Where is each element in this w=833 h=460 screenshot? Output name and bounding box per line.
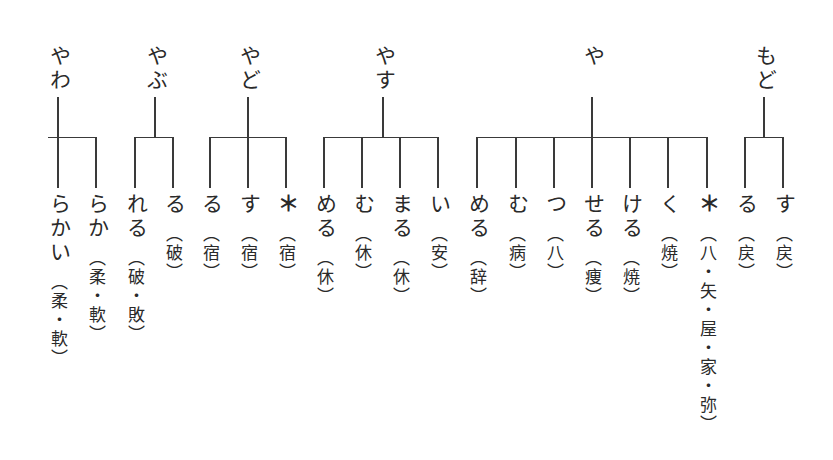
- suffix-entry: らか（柔・軟）: [86, 193, 107, 344]
- branch-bar: [210, 137, 287, 138]
- kanji-gloss: （焼）: [622, 249, 639, 306]
- suffix-text: らかい: [47, 193, 71, 265]
- branch-line: [437, 137, 438, 188]
- suffix-entry: い（安）: [428, 193, 449, 282]
- branch-line: [744, 137, 745, 188]
- suffix-text: ける: [619, 193, 643, 241]
- stem-line: [591, 97, 592, 137]
- branch-line: [476, 137, 477, 188]
- branch-line: [172, 137, 173, 188]
- kanji-gloss: （戻）: [775, 225, 792, 282]
- kanji-gloss: （宿）: [240, 225, 257, 282]
- branch-line: [629, 137, 630, 188]
- stem-line: [763, 97, 764, 137]
- branch-line: [57, 137, 58, 188]
- suffix-entry: ける（焼）: [620, 193, 641, 306]
- kanji-gloss: （休）: [354, 225, 371, 282]
- suffix-text: らか: [85, 193, 109, 241]
- suffix-entry: める（休）: [314, 193, 335, 306]
- kanji-gloss: （休）: [392, 249, 409, 306]
- branch-line: [591, 137, 592, 188]
- suffix-text: める: [313, 193, 337, 241]
- root-stem-label: やど: [238, 45, 259, 93]
- branch-bar: [477, 137, 708, 138]
- root-stem-label: もど: [754, 45, 775, 93]
- stem-line: [154, 97, 155, 137]
- suffix-text: む: [505, 193, 529, 217]
- branch-line: [323, 137, 324, 188]
- asterisk-marker-icon: ＊: [275, 193, 299, 217]
- suffix-entry: らかい（柔・軟）: [48, 193, 69, 368]
- root-stem-label: やぶ: [145, 45, 166, 93]
- suffix-text: る: [162, 193, 186, 217]
- branch-line: [782, 137, 783, 188]
- kanji-gloss: （宿）: [278, 225, 295, 282]
- marker-entry: ＊（宿）: [276, 193, 297, 282]
- branch-line: [95, 137, 96, 188]
- branch-line: [361, 137, 362, 188]
- suffix-text: まる: [389, 193, 413, 241]
- kanji-gloss: （戻）: [737, 225, 754, 282]
- branch-line: [134, 137, 135, 188]
- kanji-gloss: （休）: [316, 249, 333, 306]
- suffix-text: す: [772, 193, 796, 217]
- branch-line: [553, 137, 554, 188]
- marker-entry: ＊（八・矢・屋・家・弥）: [697, 193, 718, 434]
- suffix-text: る: [199, 193, 223, 217]
- stem-line: [57, 97, 58, 137]
- kanji-gloss: （八・矢・屋・家・弥）: [699, 225, 716, 434]
- stem-line: [382, 97, 383, 137]
- suffix-text: める: [466, 193, 490, 241]
- root-stem-label: やす: [373, 45, 394, 93]
- suffix-entry: る（戻）: [735, 193, 756, 282]
- suffix-entry: る（破）: [163, 193, 184, 282]
- branch-line: [247, 137, 248, 188]
- suffix-text: い: [427, 193, 451, 217]
- root-stem-label: や: [582, 45, 603, 69]
- suffix-entry: まる（休）: [390, 193, 411, 306]
- branch-line: [285, 137, 286, 188]
- kanji-gloss: （破）: [165, 225, 182, 282]
- kanji-gloss: （安）: [430, 225, 447, 282]
- suffix-entry: む（病）: [506, 193, 527, 282]
- branch-bar: [324, 137, 439, 138]
- suffix-text: く: [657, 193, 681, 217]
- branch-line: [515, 137, 516, 188]
- kanji-gloss: （柔・軟）: [88, 249, 105, 344]
- branch-line: [667, 137, 668, 188]
- kanji-gloss: （八）: [546, 225, 563, 282]
- suffix-text: す: [237, 193, 261, 217]
- stem-line: [247, 97, 248, 137]
- branch-line: [209, 137, 210, 188]
- kanji-gloss: （病）: [508, 225, 525, 282]
- suffix-entry: れる（破・敗）: [125, 193, 146, 344]
- branch-line: [706, 137, 707, 188]
- branch-line: [399, 137, 400, 188]
- suffix-text: む: [351, 193, 375, 217]
- suffix-entry: せる（痩）: [582, 193, 603, 306]
- suffix-text: れる: [124, 193, 148, 241]
- suffix-entry: す（戻）: [773, 193, 794, 282]
- suffix-entry: む（休）: [352, 193, 373, 282]
- asterisk-marker-icon: ＊: [696, 193, 720, 217]
- suffix-entry: る（宿）: [200, 193, 221, 282]
- branch-bar: [48, 137, 97, 138]
- suffix-entry: く（焼）: [658, 193, 679, 282]
- kanji-gloss: （宿）: [202, 225, 219, 282]
- kanji-gloss: （辞）: [469, 249, 486, 306]
- kanji-gloss: （破・敗）: [127, 249, 144, 344]
- suffix-entry: める（辞）: [467, 193, 488, 306]
- suffix-text: つ: [543, 193, 567, 217]
- kanji-gloss: （痩）: [584, 249, 601, 306]
- word-tree-diagram: もどす（戻）る（戻）や＊（八・矢・屋・家・弥）く（焼）ける（焼）せる（痩）つ（八…: [0, 0, 833, 460]
- root-stem-label: やわ: [48, 45, 69, 93]
- suffix-entry: す（宿）: [238, 193, 259, 282]
- suffix-text: せる: [581, 193, 605, 241]
- branch-bar: [745, 137, 784, 138]
- suffix-text: る: [734, 193, 758, 217]
- suffix-entry: つ（八）: [544, 193, 565, 282]
- kanji-gloss: （柔・軟）: [50, 273, 67, 368]
- branch-bar: [135, 137, 174, 138]
- kanji-gloss: （焼）: [660, 225, 677, 282]
